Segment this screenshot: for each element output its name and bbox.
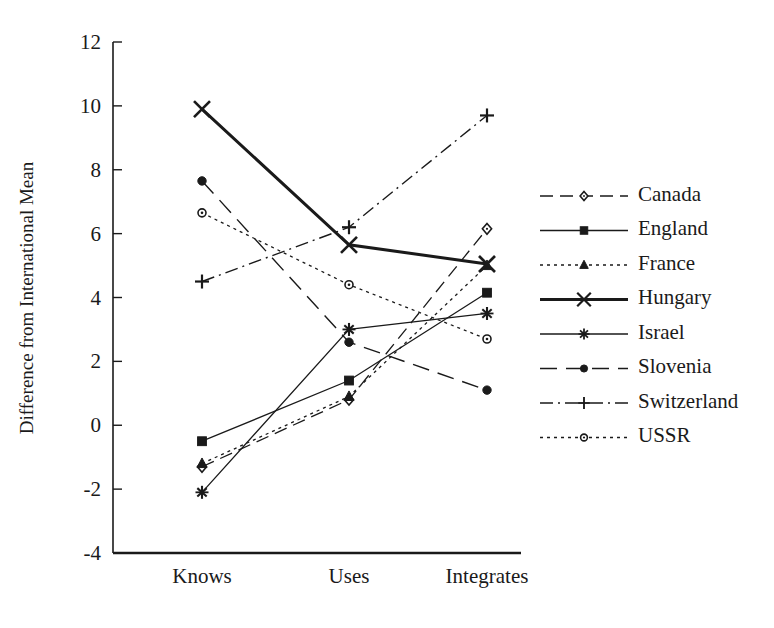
y-tick-label: -4 xyxy=(84,541,102,565)
data-series-layer xyxy=(194,101,495,499)
legend-label: Israel xyxy=(638,320,685,344)
legend-marker-sample xyxy=(578,397,590,409)
legend-label: Slovenia xyxy=(638,354,712,378)
y-tick-label: 0 xyxy=(91,413,102,437)
legend-label: Switzerland xyxy=(638,389,739,413)
y-tick-label: 2 xyxy=(91,349,102,373)
data-point-marker[interactable] xyxy=(342,220,356,234)
data-point-marker[interactable] xyxy=(483,288,492,297)
legend-item-switzerland[interactable]: Switzerland xyxy=(540,389,739,413)
legend-label: England xyxy=(638,216,708,240)
data-point-marker[interactable] xyxy=(195,275,209,289)
data-point-marker[interactable] xyxy=(483,386,491,394)
data-point-marker[interactable] xyxy=(345,338,353,346)
data-point-marker[interactable] xyxy=(194,101,210,117)
data-point-marker[interactable] xyxy=(198,177,206,185)
y-tick-label: 6 xyxy=(91,222,102,246)
series-england[interactable] xyxy=(198,288,492,445)
data-point-marker[interactable] xyxy=(197,458,207,468)
legend-label: USSR xyxy=(638,423,691,447)
legend-label: Hungary xyxy=(638,285,712,309)
y-tick-label: 12 xyxy=(80,30,101,54)
legend-item-israel[interactable]: Israel xyxy=(540,320,685,344)
axis-spines xyxy=(113,42,521,553)
legend-label: France xyxy=(638,251,695,275)
y-tick-label: 10 xyxy=(80,94,101,118)
x-axis-category-label: Integrates xyxy=(446,564,529,588)
y-tick-label: 4 xyxy=(91,286,102,310)
legend-marker-sample xyxy=(580,260,589,268)
legend-item-ussr[interactable]: USSR xyxy=(540,423,691,447)
x-axis-labels: KnowsUsesIntegrates xyxy=(172,564,528,588)
legend-item-hungary[interactable]: Hungary xyxy=(540,285,712,309)
y-axis-ticks: 121086420-2-4 xyxy=(80,30,122,565)
y-axis-title: Difference from International Mean xyxy=(16,161,37,434)
data-point-marker[interactable] xyxy=(480,108,494,122)
x-axis-category-label: Uses xyxy=(329,564,370,588)
series-hungary[interactable] xyxy=(194,101,495,272)
legend-marker-sample xyxy=(580,365,587,372)
line-chart: Difference from International Mean 12108… xyxy=(0,0,774,628)
data-point-marker[interactable] xyxy=(483,335,491,343)
chart-page: Difference from International Mean 12108… xyxy=(0,0,774,628)
series-line xyxy=(202,293,487,442)
legend-marker-sample xyxy=(580,227,587,234)
series-switzerland[interactable] xyxy=(195,108,494,288)
series-line xyxy=(202,229,487,467)
legend-label: Canada xyxy=(638,182,702,206)
data-point-marker[interactable] xyxy=(481,307,494,320)
legend-item-slovenia[interactable]: Slovenia xyxy=(540,354,712,378)
legend-marker-sample xyxy=(580,191,588,200)
legend-item-england[interactable]: England xyxy=(540,216,708,240)
y-tick-label: -2 xyxy=(84,477,102,501)
data-point-marker[interactable] xyxy=(345,281,353,289)
data-point-marker[interactable] xyxy=(482,223,491,234)
y-tick-label: 8 xyxy=(91,158,102,182)
series-france[interactable] xyxy=(197,260,492,468)
series-line xyxy=(202,313,487,492)
y-axis-title-text: Difference from International Mean xyxy=(16,161,37,434)
legend-marker-sample xyxy=(581,434,588,441)
legend-marker-sample xyxy=(578,328,589,339)
series-line xyxy=(202,266,487,464)
chart-legend: CanadaEnglandFranceHungaryIsraelSlovenia… xyxy=(540,182,739,448)
data-point-marker[interactable] xyxy=(198,209,206,217)
series-canada[interactable] xyxy=(197,223,491,472)
x-axis-category-label: Knows xyxy=(172,564,232,588)
series-israel[interactable] xyxy=(196,307,494,499)
data-point-marker[interactable] xyxy=(198,437,207,446)
legend-item-france[interactable]: France xyxy=(540,251,695,275)
data-point-marker[interactable] xyxy=(345,376,354,385)
legend-item-canada[interactable]: Canada xyxy=(540,182,702,206)
